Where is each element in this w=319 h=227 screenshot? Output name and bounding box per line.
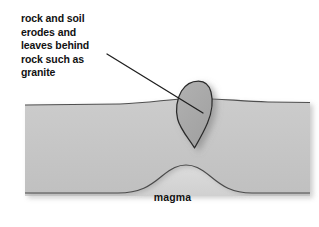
magma-label-wrap: magma <box>0 191 319 203</box>
erosion-annotation-text: rock and soil erodes and leaves behind r… <box>21 12 141 80</box>
magma-label: magma <box>154 191 191 203</box>
diagram-canvas: rock and soil erodes and leaves behind r… <box>0 0 319 227</box>
